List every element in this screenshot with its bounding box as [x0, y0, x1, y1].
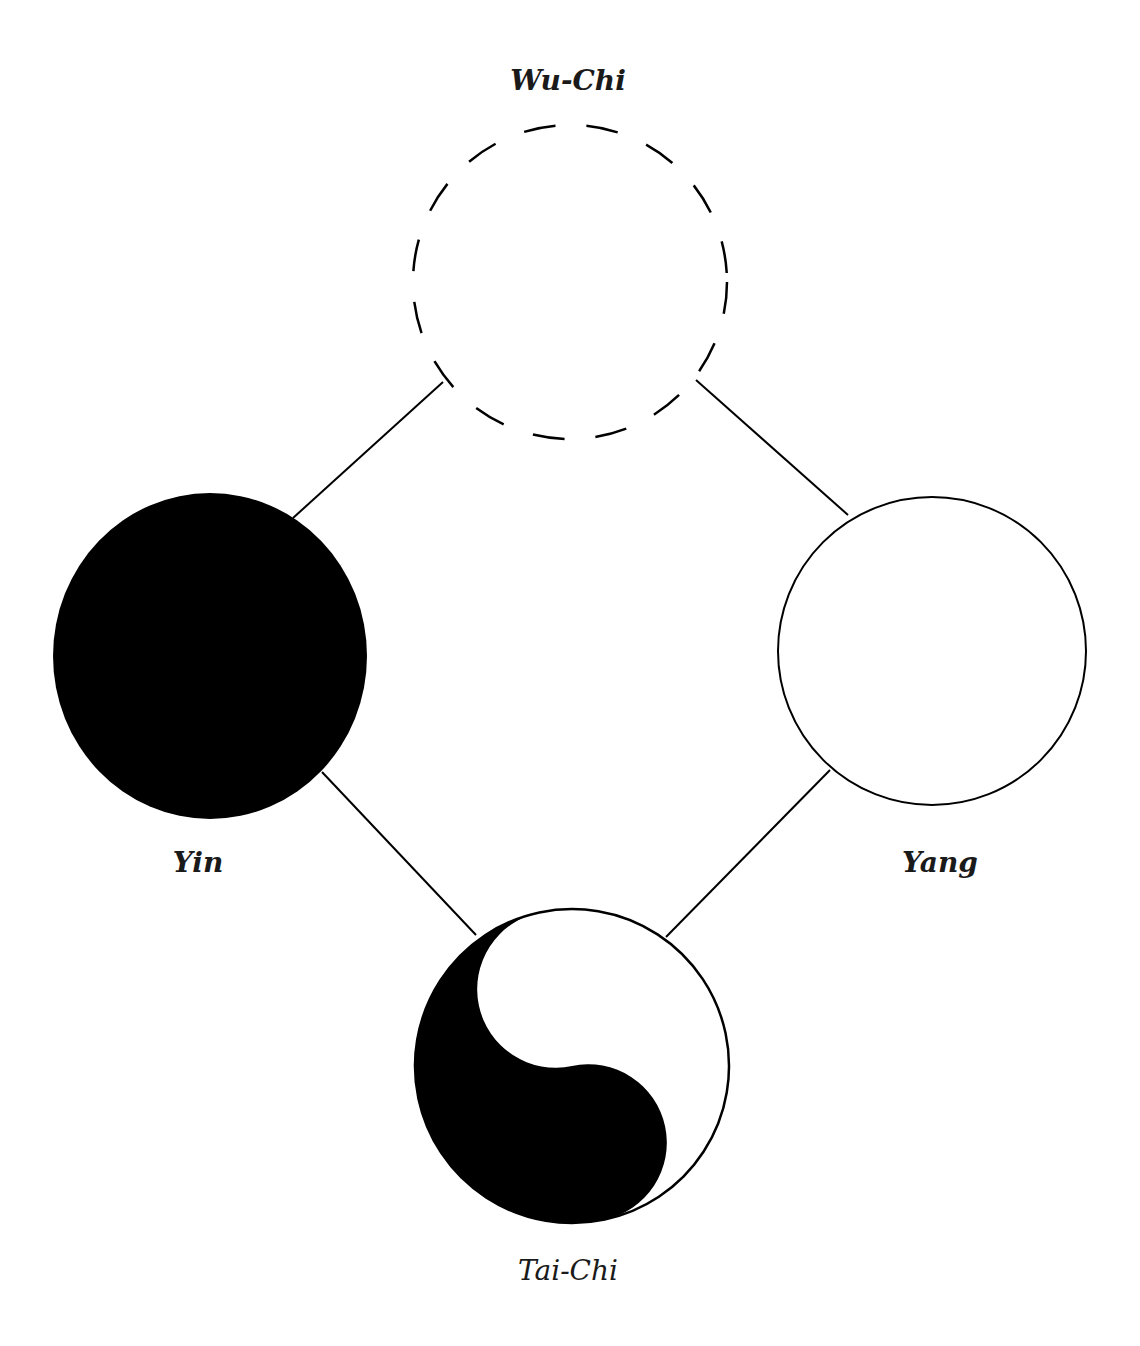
yang-label: Yang	[902, 846, 978, 879]
tai-chi-symbol	[386, 880, 758, 1252]
yang-circle	[778, 497, 1086, 805]
yin-label: Yin	[173, 846, 224, 879]
edge-wuchi-yang	[696, 380, 848, 515]
wu-chi-circle	[413, 125, 727, 439]
yin-circle	[53, 493, 367, 819]
tai-chi-label: Tai-Chi	[518, 1254, 618, 1287]
edge-wuchi-yin	[293, 382, 443, 518]
edge-yang-taichi	[666, 770, 830, 937]
edge-yin-taichi	[322, 772, 476, 935]
diagram-canvas	[0, 0, 1140, 1346]
wu-chi-label: Wu-Chi	[510, 64, 626, 97]
